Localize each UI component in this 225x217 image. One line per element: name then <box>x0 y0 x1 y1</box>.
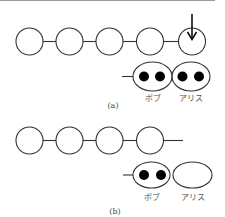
pair-alice-empty <box>173 162 212 188</box>
caption-b: (b) <box>109 207 120 216</box>
particle-dot <box>178 72 188 82</box>
diagram-canvas: ボブ アリス (a) ボブ アリス (b) <box>0 0 225 217</box>
particle-dot <box>156 170 166 180</box>
chain-node <box>16 127 43 154</box>
particle-dot <box>155 72 165 82</box>
caption-a: (a) <box>107 101 118 110</box>
particle-dot <box>194 72 204 82</box>
label-bob-a: ボブ <box>145 93 161 103</box>
figure-b <box>16 127 212 188</box>
chain-node <box>137 28 164 55</box>
chain-node <box>96 127 123 154</box>
particle-dot <box>139 72 149 82</box>
chain-node <box>16 28 43 55</box>
label-alice-a: アリス <box>179 94 203 103</box>
chain-node <box>56 127 83 154</box>
chain-node <box>137 127 164 154</box>
down-arrow-icon <box>188 14 197 40</box>
particles-b <box>139 170 166 180</box>
chain-node <box>96 28 123 55</box>
chain-node <box>56 28 83 55</box>
particle-dot <box>139 170 149 180</box>
label-alice-b: アリス <box>181 193 205 202</box>
label-bob-b: ボブ <box>144 192 160 202</box>
pair-bob <box>133 62 172 91</box>
